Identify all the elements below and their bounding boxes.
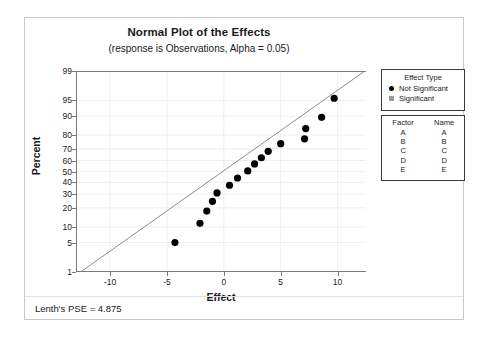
legend-entry-not-significant[interactable]: Not Significant [386,84,464,93]
y-axis-tick-mark [72,149,76,150]
y-axis-tick-mark [72,116,76,117]
x-axis-tick-mark [110,272,111,276]
data-point [171,239,178,246]
y-axis-tick-label: 10 [63,222,72,232]
y-axis-tick-label: 20 [63,203,72,213]
x-axis-tick-mark [167,272,168,276]
factor-table-row: AA [382,128,464,137]
legend-effect-type: Effect Type Not Significant Significant [381,69,465,111]
y-axis-tick-mark [72,243,76,244]
legend-factor-table: Factor Name AABBCCDDEE [381,115,465,181]
square-filled-icon [386,96,396,101]
plot-svg [76,71,366,272]
x-axis-tick-mark [281,272,282,276]
y-axis-tick-label: 50 [63,167,72,177]
name-column-header: Name [424,118,464,128]
data-point [203,207,210,214]
x-axis-tick-label: -10 [104,277,116,287]
footnote-divider [25,296,463,297]
x-axis-tick-mark [338,272,339,276]
legend-entry-not-significant-label: Not Significant [399,84,448,93]
legend-entry-significant[interactable]: Significant [386,94,464,103]
data-point [234,174,241,181]
x-axis-label: Effect [76,291,366,303]
name-cell: D [424,156,464,165]
y-axis-tick-mark [72,272,76,273]
y-axis-tick-label: 90 [63,111,72,121]
circle-filled-icon [386,86,396,91]
y-axis-tick-mark [72,71,76,72]
y-axis-tick-mark [72,135,76,136]
plot-area [76,71,366,272]
y-axis-tick-label: 40 [63,177,72,187]
factor-cell: C [382,146,424,155]
x-axis-tick-label: 0 [221,277,226,287]
legend-entry-significant-label: Significant [399,94,434,103]
chart-title: Normal Plot of the Effects [24,26,374,38]
name-cell: C [424,146,464,155]
y-axis-tick-label: 60 [63,156,72,166]
data-point [265,148,272,155]
y-axis-tick-mark [72,100,76,101]
data-point [209,198,216,205]
y-axis-tick-mark [72,208,76,209]
footnote-lenths-pse: Lenth's PSE = 4.875 [35,303,122,314]
y-axis-tick-mark [72,172,76,173]
x-axis-tick-mark [224,272,225,276]
y-axis-tick-label: 99 [63,66,72,76]
factor-cell: D [382,156,424,165]
y-axis-tick-label: 95 [63,95,72,105]
data-point [301,135,308,142]
factor-table-row: DD [382,156,464,165]
data-point [244,167,251,174]
x-axis-tick-label: 5 [278,277,283,287]
y-axis-tick-mark [72,194,76,195]
factor-table-row: BB [382,137,464,146]
y-axis-tick-label: 30 [63,189,72,199]
y-axis-label: Percent [30,116,42,196]
x-axis-tick-labels: -10-50510 [76,277,366,291]
factor-cell: A [382,128,424,137]
y-axis-tick-mark [72,182,76,183]
data-point [213,189,220,196]
data-point [196,220,203,227]
x-axis-tick-label: -5 [163,277,171,287]
chart-subtitle: (response is Observations, Alpha = 0.05) [24,43,374,54]
y-axis-tick-mark [72,161,76,162]
y-axis-tick-labels: 151020304050607080909599 [46,71,72,272]
data-point [226,182,233,189]
data-point [277,140,284,147]
factor-cell: E [382,165,424,174]
x-axis-tick-label: 10 [333,277,342,287]
factor-column-header: Factor [382,118,424,128]
factor-name-table: Factor Name AABBCCDDEE [382,118,464,174]
factor-table-row: EE [382,165,464,174]
data-point [331,95,338,102]
data-point [318,114,325,121]
legend-effect-type-heading: Effect Type [382,73,464,82]
factor-table-header-row: Factor Name [382,118,464,128]
name-cell: A [424,128,464,137]
y-axis-tick-label: 70 [63,144,72,154]
y-axis-tick-label: 80 [63,130,72,140]
name-cell: E [424,165,464,174]
data-point [302,125,309,132]
y-axis-tick-mark [72,227,76,228]
factor-cell: B [382,137,424,146]
factor-table-body: AABBCCDDEE [382,128,464,174]
data-point [258,154,265,161]
data-point [251,160,258,167]
factor-table-row: CC [382,146,464,155]
name-cell: B [424,137,464,146]
